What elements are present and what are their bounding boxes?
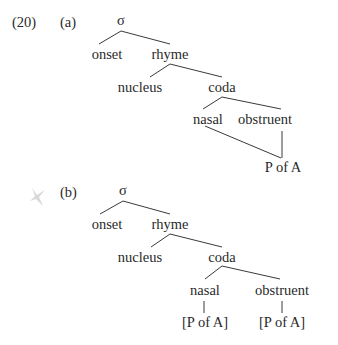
edge-b-rhyme-coda [170,234,222,247]
tree-a-label: (a) [60,15,76,30]
edge-b-sigma-rhyme [123,201,170,214]
tree-a-nasal-node: nasal [193,112,223,127]
example-number: (20) [12,15,36,30]
tree-a-obstruent-node: obstruent [238,112,292,127]
edge-b-coda-obstruent [222,266,280,279]
tree-b-obstruent-node: obstruent [255,283,309,298]
edge-a-coda-nasal [203,97,222,109]
tree-a-sigma-node: σ [117,13,125,28]
tree-b-rhyme-node: rhyme [151,217,188,232]
tree-b-obstruent-feature-node: [P of A] [259,315,305,330]
scan-smudge-icon [28,186,48,208]
edge-a-sigma-rhyme [121,31,170,44]
edge-a-rhyme-coda [170,64,222,77]
tree-a-place-feature-node: P of A [265,160,302,175]
edge-a-nasal-feature [205,126,281,158]
tree-a-nucleus-node: nucleus [118,80,162,95]
edge-a-rhyme-nucleus [150,64,170,77]
edge-a-sigma-onset [99,31,121,44]
tree-b-label: (b) [60,185,77,200]
tree-b-nucleus-node: nucleus [118,250,162,265]
tree-a-onset-node: onset [92,47,123,62]
edge-b-sigma-onset [100,201,123,214]
edge-b-rhyme-nucleus [151,234,170,247]
tree-a-coda-node: coda [208,80,235,95]
tree-b-sigma-node: σ [119,183,127,198]
tree-b-coda-node: coda [208,250,235,265]
tree-b-nasal-feature-node: [P of A] [182,315,228,330]
edge-a-coda-obstruent [222,97,281,109]
tree-b-onset-node: onset [92,217,123,232]
edge-b-coda-nasal [205,266,222,279]
tree-a-rhyme-node: rhyme [151,47,188,62]
tree-b-nasal-node: nasal [190,283,220,298]
